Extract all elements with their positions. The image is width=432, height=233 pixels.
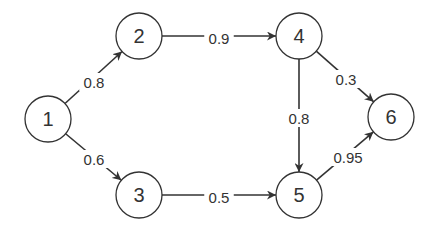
edge-weight-label: 0.9 [209, 30, 230, 47]
node-label: 2 [133, 25, 144, 47]
edge-weight-label: 0.5 [209, 189, 230, 206]
edge-1-to-2: 0.8 [65, 51, 122, 103]
node-3: 3 [116, 172, 162, 218]
node-label: 5 [293, 184, 304, 206]
edge-4-to-6: 0.3 [316, 51, 373, 102]
edge-3-to-5: 0.5 [162, 188, 276, 206]
edge-4-to-5: 0.8 [284, 59, 314, 172]
node-1: 1 [25, 96, 71, 142]
node-6: 6 [368, 94, 414, 140]
edge-weight-label: 0.95 [333, 149, 362, 166]
edge-weight-label: 0.8 [84, 74, 105, 91]
edge-weight-label: 0.6 [84, 151, 105, 168]
edges-group: 0.80.60.90.50.80.30.95 [65, 29, 374, 206]
network-diagram: 0.80.60.90.50.80.30.95 123456 [0, 0, 432, 233]
node-label: 4 [293, 25, 304, 47]
edge-2-to-4: 0.9 [162, 29, 276, 47]
node-label: 6 [385, 106, 396, 128]
node-label: 1 [42, 108, 53, 130]
node-2: 2 [116, 13, 162, 59]
node-label: 3 [133, 184, 144, 206]
edge-weight-label: 0.8 [289, 110, 310, 127]
edge-weight-label: 0.3 [336, 71, 357, 88]
node-4: 4 [276, 13, 322, 59]
edge-5-to-6: 0.95 [317, 132, 374, 180]
edge-1-to-3: 0.6 [66, 134, 122, 181]
node-5: 5 [276, 172, 322, 218]
